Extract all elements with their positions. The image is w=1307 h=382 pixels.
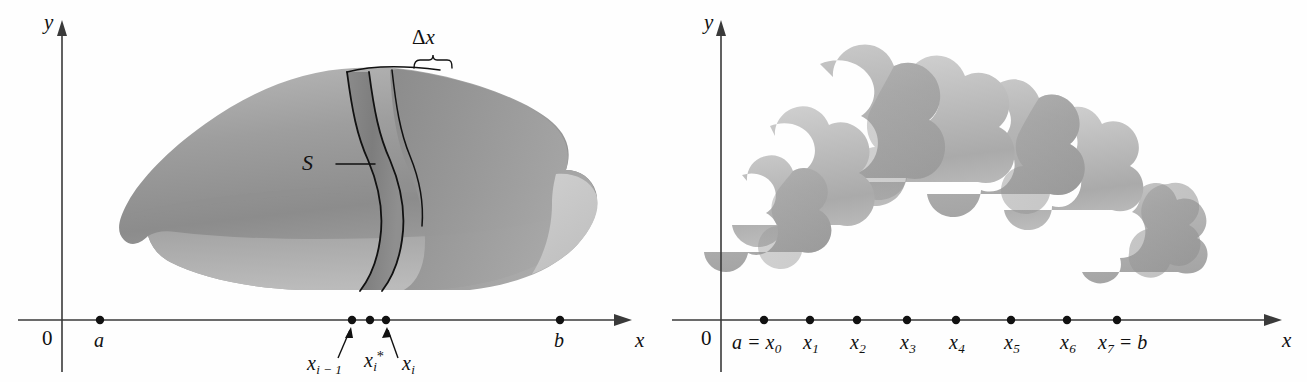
dot-xim1 <box>348 316 356 324</box>
dot-x1 <box>806 316 814 324</box>
tick-label-x-i-minus-1: xi − 1 <box>307 353 342 376</box>
figure-canvas: y x 0 a b S Δx xi − 1 xi* xi <box>0 0 1307 382</box>
tick-label-x5: x5 <box>1004 332 1020 355</box>
delta-symbol: Δ <box>412 25 426 49</box>
tick-label-x0: a = x0 <box>732 332 781 355</box>
tick-subscript: 5 <box>1013 341 1020 356</box>
tick-base: x <box>803 331 812 353</box>
tick-suffix-b: = b <box>1114 331 1148 353</box>
dot-b <box>556 316 564 324</box>
dot-x5 <box>1007 316 1015 324</box>
dot-x2 <box>853 316 861 324</box>
dot-x4 <box>952 316 960 324</box>
solid-label-S: S <box>302 152 313 174</box>
left-x-axis-label: x <box>635 330 644 351</box>
tick-base: x <box>364 349 373 371</box>
delta-x-brace <box>414 55 452 68</box>
tick-base: x <box>1060 331 1069 353</box>
tick-base: x <box>402 352 411 374</box>
tick-superscript-star: * <box>377 348 384 364</box>
right-x-axis-label: x <box>1282 330 1291 351</box>
tick-subscript: 2 <box>859 341 866 356</box>
dot-xstar <box>366 316 374 324</box>
tick-base: x <box>766 331 775 353</box>
tick-subscript: 1 <box>812 341 819 356</box>
tick-label-x3: x3 <box>900 332 916 355</box>
dot-x6 <box>1063 316 1071 324</box>
tick-base: x <box>900 331 909 353</box>
tick-base: x <box>949 331 958 353</box>
tick-base: x <box>307 352 316 374</box>
left-y-axis-label: y <box>44 12 53 33</box>
tick-subscript: 7 <box>1107 341 1114 356</box>
dot-x0 <box>760 316 768 324</box>
tick-subscript: 0 <box>775 341 782 356</box>
tick-subscript: 3 <box>909 341 916 356</box>
leader-xim1-head <box>345 327 353 338</box>
tick-label-x4: x4 <box>949 332 965 355</box>
dot-xi <box>382 316 390 324</box>
delta-variable: x <box>426 25 435 49</box>
tick-label-a: a <box>94 330 104 350</box>
left-panel-solid: y x 0 a b S Δx xi − 1 xi* xi <box>0 0 660 382</box>
tick-label-x1: x1 <box>803 332 819 355</box>
solid-body <box>119 67 598 290</box>
tick-label-x7: x7 = b <box>1098 332 1147 355</box>
tick-subscript: 4 <box>958 341 965 356</box>
left-panel-graphics <box>0 0 660 382</box>
y-axis-arrowhead <box>716 20 726 36</box>
x-axis-arrowhead <box>614 314 632 326</box>
tick-prefix-a: a = <box>732 331 766 353</box>
tick-label-x-i-star: xi* <box>364 349 384 373</box>
cylinder-1 <box>704 155 831 272</box>
cylinder-stack <box>704 44 1208 283</box>
tick-label-x6: x6 <box>1060 332 1076 355</box>
leader-xi-head <box>382 327 391 338</box>
tick-subscript: i − 1 <box>316 362 342 377</box>
right-panel-graphics <box>660 0 1307 382</box>
tick-label-b: b <box>554 330 564 350</box>
tick-label-x-i: xi <box>402 353 415 376</box>
tick-subscript: i <box>411 362 415 377</box>
x-axis-arrowhead <box>1264 314 1282 326</box>
left-origin-label: 0 <box>42 328 53 349</box>
y-axis-arrowhead <box>57 20 67 36</box>
tick-base: x <box>850 331 859 353</box>
right-y-axis-label: y <box>704 12 713 33</box>
dot-a <box>96 316 104 324</box>
tick-base: x <box>1004 331 1013 353</box>
dot-x7 <box>1113 316 1121 324</box>
tick-base: x <box>1098 331 1107 353</box>
tick-subscript: 6 <box>1069 341 1076 356</box>
right-panel-cylinders: y x 0 a = x0 x1 x2 x3 x4 x5 x6 <box>660 0 1307 382</box>
tick-label-x2: x2 <box>850 332 866 355</box>
dot-x3 <box>903 316 911 324</box>
delta-x-label: Δx <box>412 27 435 48</box>
right-origin-label: 0 <box>701 328 712 349</box>
